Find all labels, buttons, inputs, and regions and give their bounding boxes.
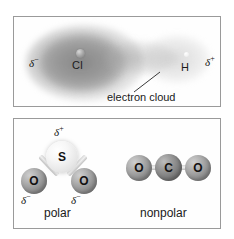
oxygen-atom-label-left: O: [29, 174, 38, 188]
oxygen-atom-sphere-co2-right: O: [185, 155, 211, 181]
molecular-polarity-figure: Cl H δ− δ+ electron cloud S O O δ+ δ− δ−…: [0, 0, 234, 239]
sulfur-atom-sphere: S: [46, 141, 78, 173]
carbon-atom-label: C: [164, 161, 173, 175]
chlorine-atom-label: Cl: [72, 59, 83, 71]
oxygen-atom-sphere-left: O: [21, 168, 47, 194]
electron-cloud-caption: electron cloud: [107, 91, 176, 103]
sulfur-atom-label: S: [58, 150, 66, 164]
delta-sign: −: [76, 192, 81, 201]
hydrogen-nucleus-icon: [184, 52, 189, 57]
carbon-atom-sphere: C: [155, 154, 182, 181]
oxygen-atom-sphere-co2-left: O: [126, 155, 152, 181]
partial-negative-charge-oxygen-left: δ−: [21, 194, 31, 206]
chlorine-nucleus-icon: [76, 49, 85, 58]
partial-positive-charge-sulfur: δ+: [54, 126, 64, 138]
delta-sign: −: [26, 192, 31, 201]
delta-sign: +: [210, 54, 215, 63]
delta-sign: +: [59, 124, 64, 133]
nonpolar-molecule-label: nonpolar: [140, 206, 187, 220]
partial-negative-charge-chlorine: δ−: [29, 57, 39, 69]
electron-cloud-hydrogen-lobe: [144, 35, 210, 83]
oxygen-atom-label-right: O: [79, 174, 88, 188]
partial-positive-charge-hydrogen: δ+: [205, 56, 215, 68]
oxygen-atom-label-co2-right: O: [193, 161, 202, 175]
delta-sign: −: [34, 55, 39, 64]
polar-molecule-label: polar: [44, 206, 71, 220]
oxygen-atom-sphere-right: O: [71, 168, 97, 194]
panel-hcl-electron-cloud: Cl H δ− δ+ electron cloud: [13, 16, 221, 107]
hydrogen-atom-label: H: [181, 61, 189, 73]
partial-negative-charge-oxygen-right: δ−: [71, 194, 81, 206]
oxygen-atom-label-co2-left: O: [134, 161, 143, 175]
